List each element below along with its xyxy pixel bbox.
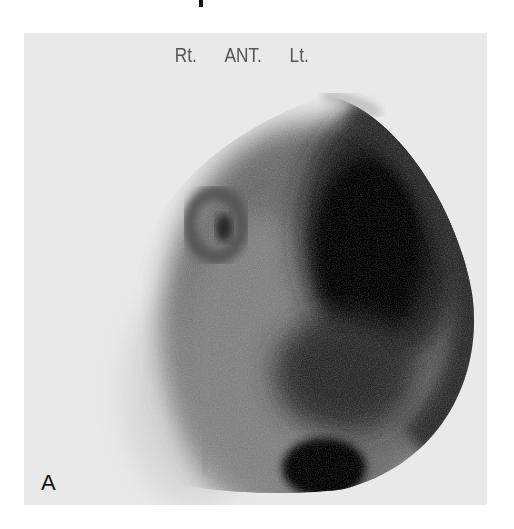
label-right: Rt. — [175, 43, 197, 66]
scintigraphy-panel: Rt. ANT. Lt. A — [24, 33, 487, 505]
orientation-labels: Rt. ANT. Lt. — [52, 43, 432, 67]
scan-image — [24, 33, 487, 505]
label-left: Lt. — [290, 43, 309, 66]
panel-letter: A — [41, 470, 56, 496]
label-view: ANT. — [224, 43, 261, 66]
top-mark — [199, 0, 203, 7]
